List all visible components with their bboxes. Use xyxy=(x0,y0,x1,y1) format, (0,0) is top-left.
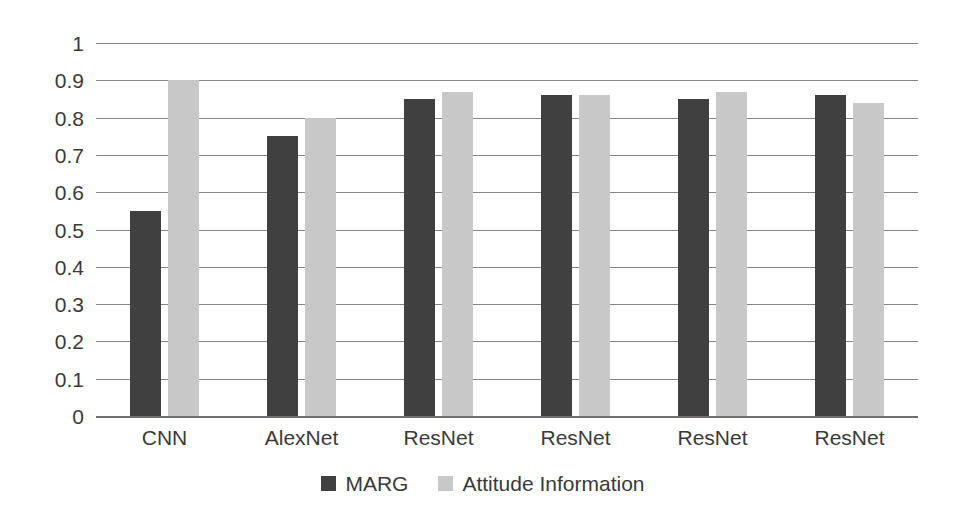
bar xyxy=(267,136,298,416)
y-tick-label: 0.6 xyxy=(0,182,84,203)
bar xyxy=(853,103,884,416)
x-axis-line xyxy=(96,416,918,418)
bar xyxy=(579,95,610,416)
y-tick-label: 0.3 xyxy=(0,294,84,315)
bar xyxy=(541,95,572,416)
legend: MARGAttitude Information xyxy=(0,468,966,498)
legend-item[interactable]: MARG xyxy=(321,473,408,494)
bar xyxy=(815,95,846,416)
x-tick-label: ResNet xyxy=(644,424,781,454)
bar xyxy=(168,80,199,416)
y-tick-label: 0.8 xyxy=(0,107,84,128)
bar-chart: 10.90.80.70.60.50.40.30.20.10 CNNAlexNet… xyxy=(0,0,966,516)
bar xyxy=(305,118,336,416)
bar-group xyxy=(507,43,644,416)
bar-group xyxy=(370,43,507,416)
y-tick-label: 0.9 xyxy=(0,70,84,91)
y-tick-label: 0.2 xyxy=(0,331,84,352)
bar xyxy=(678,99,709,416)
legend-swatch-icon xyxy=(321,476,336,491)
y-axis: 10.90.80.70.60.50.40.30.20.10 xyxy=(0,43,84,416)
x-axis: CNNAlexNetResNetResNetResNetResNet xyxy=(96,424,918,454)
bars-layer xyxy=(96,43,918,416)
legend-label: Attitude Information xyxy=(462,473,644,494)
bar xyxy=(716,92,747,417)
bar-group xyxy=(233,43,370,416)
y-tick-label: 0.4 xyxy=(0,256,84,277)
y-tick-label: 1 xyxy=(0,33,84,54)
bar-group xyxy=(644,43,781,416)
y-tick-label: 0.5 xyxy=(0,219,84,240)
bar-group xyxy=(781,43,918,416)
legend-swatch-icon xyxy=(438,476,453,491)
bar xyxy=(130,211,161,416)
y-tick-label: 0.1 xyxy=(0,368,84,389)
x-tick-label: ResNet xyxy=(370,424,507,454)
x-tick-label: ResNet xyxy=(507,424,644,454)
x-tick-label: AlexNet xyxy=(233,424,370,454)
x-tick-label: CNN xyxy=(96,424,233,454)
legend-item[interactable]: Attitude Information xyxy=(438,473,644,494)
y-tick-label: 0 xyxy=(0,406,84,427)
bar xyxy=(442,92,473,417)
x-tick-label: ResNet xyxy=(781,424,918,454)
bar xyxy=(404,99,435,416)
legend-label: MARG xyxy=(345,473,408,494)
y-tick-label: 0.7 xyxy=(0,144,84,165)
bar-group xyxy=(96,43,233,416)
